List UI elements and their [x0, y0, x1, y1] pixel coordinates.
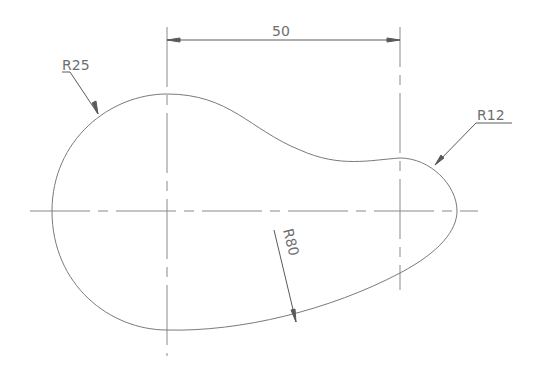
- centerlines: [30, 27, 478, 356]
- r80-label: R80: [280, 227, 302, 258]
- leader-r12: [435, 123, 512, 165]
- leader-r25: [62, 72, 98, 114]
- r25-label: R25: [62, 57, 90, 73]
- cam-profile-outline: [52, 94, 457, 330]
- r12-label: R12: [477, 107, 505, 123]
- cad-drawing: 50 R25 R12 R80: [0, 0, 540, 382]
- dimension-50-label: 50: [272, 23, 290, 39]
